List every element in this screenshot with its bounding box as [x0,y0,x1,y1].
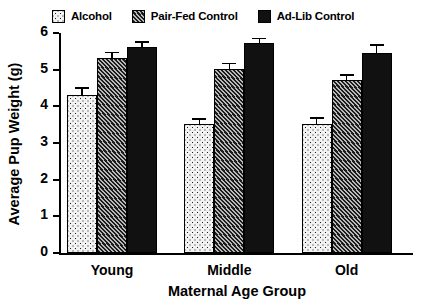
bar [127,47,157,253]
y-axis-tick: 1 [53,215,59,217]
error-bar [346,76,348,80]
y-axis-tick-label: 1 [32,206,48,222]
error-bar-cap [340,74,354,76]
bar [214,69,244,253]
bar [184,124,214,253]
error-bar [259,39,261,43]
error-bar [316,119,318,124]
error-bar [229,64,231,68]
legend-item-alcohol: Alcohol [52,10,112,23]
legend-label: Pair-Fed Control [151,10,238,22]
legend-item-ad-lib-control: Ad-Lib Control [258,10,355,23]
bar [97,58,127,253]
x-axis-category-labels: YoungMiddleOld [61,262,413,282]
error-bar [81,89,83,96]
error-bar-cap [135,41,149,43]
plot-area: 0123456 [61,33,413,253]
error-bar [199,120,201,124]
legend-label: Ad-Lib Control [277,10,355,22]
y-axis-tick: 6 [53,32,59,34]
bar [67,95,97,253]
bar-chart-figure: Alcohol Pair-Fed Control Ad-Lib Control … [0,0,421,308]
y-axis-title-text: Average Pup Weight (g) [6,63,22,226]
legend-label: Alcohol [71,10,112,22]
x-axis-title: Maternal Age Group [61,283,413,299]
error-bar-cap [310,117,324,119]
bar [244,43,274,253]
error-bar [376,46,378,53]
hatched-swatch-icon [132,10,145,23]
y-axis-line [59,33,61,254]
x-axis-line [59,253,413,255]
y-axis-tick: 0 [53,252,59,254]
error-bar-cap [222,63,236,65]
dotted-swatch-icon [52,10,65,23]
y-axis-tick-label: 0 [32,243,48,259]
y-axis-tick-label: 5 [32,60,48,76]
y-axis-tick: 2 [53,179,59,181]
bar [332,80,362,253]
chart-legend: Alcohol Pair-Fed Control Ad-Lib Control [52,5,418,27]
error-bar-cap [370,44,384,46]
x-axis-category-label: Old [307,262,387,278]
error-bar-cap [192,118,206,120]
y-axis-tick: 3 [53,142,59,144]
bar [302,124,332,253]
y-axis-tick-label: 4 [32,96,48,112]
error-bar-cap [105,52,119,54]
error-bar [141,43,143,48]
x-axis-category-label: Young [72,262,152,278]
x-axis-category-label: Middle [189,262,269,278]
error-bar-cap [252,38,266,40]
y-axis-tick: 5 [53,69,59,71]
y-axis-tick-label: 3 [32,133,48,149]
y-axis-tick-label: 2 [32,170,48,186]
y-axis-title: Average Pup Weight (g) [4,36,24,252]
error-bar-cap [75,87,89,89]
error-bar [111,53,113,58]
y-axis-tick: 4 [53,105,59,107]
solid-swatch-icon [258,10,271,23]
y-axis-tick-label: 6 [32,23,48,39]
legend-item-pair-fed-control: Pair-Fed Control [132,10,238,23]
bar [362,53,392,253]
